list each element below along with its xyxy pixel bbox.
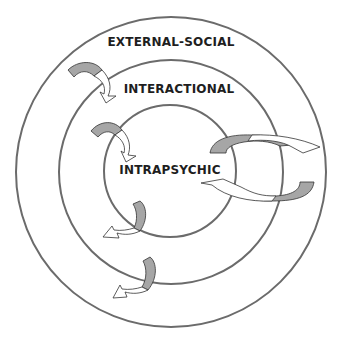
- label-external-social: EXTERNAL-SOCIAL: [107, 35, 234, 49]
- arrow-icon-middle-to-inner: [91, 123, 136, 162]
- concentric-diagram: EXTERNAL-SOCIAL INTERACTIONAL INTRAPSYCH…: [0, 0, 340, 339]
- arrow-icon-outer-to-middle: [68, 63, 116, 104]
- label-interactional: INTERACTIONAL: [124, 82, 235, 96]
- label-intrapsychic: INTRAPSYCHIC: [119, 163, 220, 177]
